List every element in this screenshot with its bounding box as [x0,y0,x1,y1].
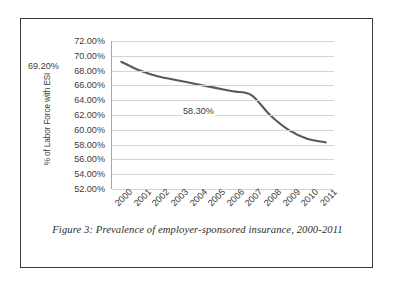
gridline [112,71,334,72]
figure-caption: Figure 3: Prevalence of employer-sponsor… [21,224,374,235]
y-axis-tick-label: 58.00% [49,140,105,150]
plot-area [111,41,334,189]
y-axis-tick-label: 60.00% [49,125,105,135]
gridline [112,41,334,42]
gridline [112,56,334,57]
x-axis-tick-labels: 2000200120022003200420052006200720082009… [111,190,334,220]
gridline [112,100,334,101]
data-label-start: 69.20% [27,61,60,71]
chart: % of Labor Force with ESI 72.00%70.00%68… [21,19,374,219]
gridline [112,85,334,86]
gridline [112,130,334,131]
y-axis-tick-label: 70.00% [49,51,105,61]
gridline [112,159,334,160]
y-axis-tick-label: 54.00% [49,169,105,179]
gridline [112,174,334,175]
y-axis-tick-label: 62.00% [49,110,105,120]
y-axis-tick-label: 56.00% [49,154,105,164]
y-axis-tick-label: 64.00% [49,95,105,105]
y-axis-tick-label: 72.00% [49,36,105,46]
data-label-end: 58.30% [182,106,215,116]
gridline [112,115,334,116]
figure-frame: % of Labor Force with ESI 72.00%70.00%68… [20,18,373,268]
gridline [112,145,334,146]
y-axis-tick-label: 52.00% [49,184,105,194]
y-axis-tick-label: 66.00% [49,80,105,90]
